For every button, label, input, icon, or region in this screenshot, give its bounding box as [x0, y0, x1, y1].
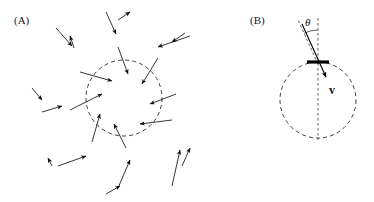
velocity-vector [302, 24, 326, 77]
figure-container: (A) (B) θ v [0, 0, 374, 202]
flow-arrow [118, 160, 130, 188]
flow-arrow [42, 106, 62, 112]
flow-arrow [172, 33, 185, 42]
panel-a-arrow-field [32, 12, 190, 194]
flow-arrow [158, 36, 190, 47]
flow-arrow [142, 58, 158, 84]
flow-arrow [182, 148, 190, 166]
velocity-label: v [329, 83, 335, 97]
flow-arrow [172, 150, 180, 186]
flow-arrow [58, 156, 86, 166]
flow-arrow [48, 158, 52, 166]
panel-b-label: (B) [250, 14, 265, 27]
panel-a-label: (A) [14, 14, 30, 27]
flow-arrow [80, 72, 112, 81]
flow-arrow [106, 12, 116, 34]
flow-arrow [70, 94, 102, 110]
theta-label: θ [305, 16, 311, 28]
panel-a-group: (A) [14, 12, 190, 194]
panel-b-group: (B) θ v [250, 14, 356, 140]
flow-arrow [92, 114, 100, 142]
flow-arrow [56, 28, 72, 46]
figure-canvas: (A) (B) θ v [0, 0, 374, 202]
flow-arrow [32, 88, 42, 100]
flow-arrow [118, 12, 130, 20]
flow-arrow [70, 36, 74, 48]
flow-arrow [150, 94, 176, 104]
flow-arrow [140, 120, 172, 124]
